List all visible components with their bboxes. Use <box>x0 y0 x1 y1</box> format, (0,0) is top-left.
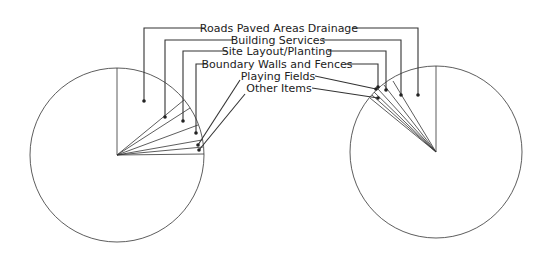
dot-right-site <box>384 88 388 92</box>
left-pie <box>30 68 204 242</box>
dot-left-site <box>181 119 185 123</box>
left-pie-boundary-1 <box>117 100 184 155</box>
dot-left-roads <box>142 99 146 103</box>
right-pie-boundary-2 <box>384 85 436 152</box>
label-other: Other Items <box>246 82 312 95</box>
leader-left-other <box>199 94 245 150</box>
dot-right-building <box>399 93 403 97</box>
dot-left-building <box>163 115 167 119</box>
leader-left-playing <box>198 80 240 145</box>
leader-right-roads <box>352 28 418 95</box>
dot-left-boundary <box>194 131 198 135</box>
dot-right-other <box>376 96 380 100</box>
leader-right-other <box>312 88 378 98</box>
dot-left-other <box>197 148 201 152</box>
left-pie-boundary-2 <box>117 108 190 155</box>
category-labels: Roads Paved Areas Drainage Building Serv… <box>200 22 358 95</box>
left-pie-boundary-4 <box>117 140 202 155</box>
right-pie-boundary-5 <box>372 95 436 152</box>
dot-right-playing <box>374 87 378 91</box>
dot-left-playing <box>196 143 200 147</box>
right-pie-boundary-3 <box>378 89 436 152</box>
right-pie <box>350 66 522 238</box>
right-pie-boundary-6 <box>370 98 436 152</box>
label-site: Site Layout/Planting <box>222 45 332 58</box>
dot-right-roads <box>416 93 420 97</box>
left-pie-boundary-3 <box>117 125 198 155</box>
leader-right-playing <box>315 76 376 89</box>
pie-chart-figure: Roads Paved Areas Drainage Building Serv… <box>0 0 549 262</box>
